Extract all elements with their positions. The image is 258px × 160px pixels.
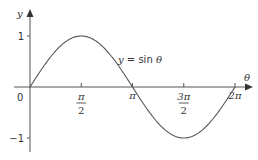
- origin-label: 0: [17, 92, 23, 103]
- x-axis-label: θ: [244, 72, 250, 83]
- x-tick-label-numerator: π: [77, 91, 85, 102]
- sine-chart: y θ 0 π2π3π22π1−1 y = sin θ: [0, 0, 258, 160]
- x-tick-label-denominator: 2: [181, 105, 187, 116]
- curve-label: y = sin θ: [117, 54, 162, 65]
- curve-label-theta: θ: [156, 54, 162, 65]
- x-tick-label-denominator: 2: [78, 105, 84, 116]
- y-tick-label: −1: [9, 133, 24, 144]
- curve-label-eq: = sin: [124, 54, 156, 65]
- y-axis-label: y: [16, 8, 23, 19]
- x-axis-arrow-icon: [245, 84, 253, 91]
- y-tick-label: 1: [18, 31, 24, 42]
- x-tick-label-numerator: 3π: [177, 91, 190, 102]
- y-axis-arrow-icon: [27, 9, 34, 17]
